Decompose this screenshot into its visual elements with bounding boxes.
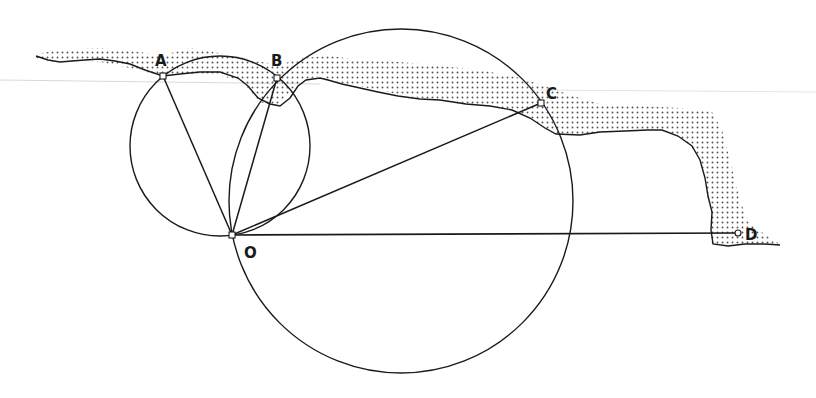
label-B: B — [271, 52, 282, 70]
label-A: A — [155, 52, 167, 70]
scan-line — [540, 90, 816, 92]
segment-OD — [232, 233, 738, 235]
segment-OA — [163, 76, 232, 235]
coastline-stipple — [36, 48, 780, 246]
point-marker-O — [229, 232, 235, 238]
point-marker-C — [538, 100, 544, 106]
label-O: O — [244, 244, 257, 262]
point-marker-D — [735, 230, 741, 236]
segment-OC — [232, 103, 541, 235]
label-D: D — [745, 226, 757, 244]
geometry-diagram: A B C D O — [0, 0, 816, 398]
segment-OB — [232, 78, 277, 235]
point-marker-B — [274, 75, 280, 81]
point-marker-A — [160, 73, 166, 79]
label-C: C — [546, 85, 557, 103]
